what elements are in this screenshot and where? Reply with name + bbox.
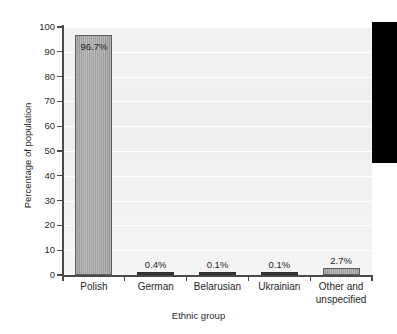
- y-tick-label-100: 100: [33, 22, 55, 32]
- bar-3: [261, 272, 298, 275]
- y-tick-40: [57, 175, 63, 176]
- bar-value-label-4: 2.7%: [311, 255, 371, 266]
- bar-value-label-1: 0.4%: [126, 259, 186, 270]
- category-label-line: Other and: [301, 281, 381, 294]
- bar-1: [137, 272, 174, 275]
- y-tick-label-0: 0: [33, 270, 55, 280]
- bar-chart: 0102030405060708090100 96.7%0.4%0.1%0.1%…: [0, 0, 397, 334]
- category-label-4: Other andunspecified: [301, 281, 381, 306]
- bar-value-label-0: 96.7%: [64, 41, 124, 52]
- y-tick-50: [57, 150, 63, 151]
- bar-4: [323, 268, 360, 275]
- y-tick-label-70: 70: [33, 96, 55, 106]
- gridline-100: [63, 27, 372, 28]
- bar-0: [75, 35, 112, 275]
- bar-value-label-3: 0.1%: [249, 259, 309, 270]
- category-label-line: unspecified: [301, 294, 381, 307]
- y-tick-label-10: 10: [33, 245, 55, 255]
- y-tick-label-20: 20: [33, 220, 55, 230]
- y-tick-label-90: 90: [33, 47, 55, 57]
- y-tick-80: [57, 76, 63, 77]
- y-tick-60: [57, 126, 63, 127]
- y-tick-20: [57, 225, 63, 226]
- y-tick-label-60: 60: [33, 121, 55, 131]
- y-tick-label-40: 40: [33, 171, 55, 181]
- scan-edge-artifact: [372, 22, 397, 163]
- bar-2: [199, 272, 236, 275]
- y-tick-10: [57, 250, 63, 251]
- y-tick-70: [57, 101, 63, 102]
- y-tick-30: [57, 200, 63, 201]
- x-axis-title: Ethnic group: [0, 310, 397, 321]
- y-tick-label-30: 30: [33, 196, 55, 206]
- bar-value-label-2: 0.1%: [188, 259, 248, 270]
- y-tick-90: [57, 51, 63, 52]
- y-tick-100: [57, 26, 63, 27]
- x-axis-line: [62, 275, 373, 277]
- y-tick-label-80: 80: [33, 72, 55, 82]
- y-tick-label-50: 50: [33, 146, 55, 156]
- y-axis-title: Percentage of population: [22, 36, 33, 276]
